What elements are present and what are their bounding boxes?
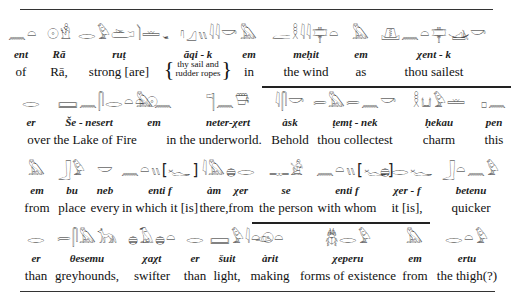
transliteration: pen [478, 116, 510, 129]
translation: in which it [is] [120, 200, 200, 216]
translation: this [478, 132, 510, 148]
translation: place [54, 200, 90, 216]
translation: forms of existence [298, 268, 398, 284]
transliteration: em [132, 116, 176, 129]
hieroglyph-group: 𓈖𓏏 [8, 22, 34, 46]
transliteration: betenu [436, 184, 506, 197]
transliteration: neter-χert [200, 116, 256, 129]
transliteration: Še - nesert [58, 116, 120, 129]
hieroglyph-group: 𓍿𓋴𓅓𓃥 [54, 226, 120, 250]
transliteration: neb [90, 184, 120, 197]
hieroglyph-group: 𓈖𓏏𓏭[𓆑] [120, 158, 200, 182]
translation: thou sailest [378, 64, 490, 80]
transliteration: meḥit [266, 48, 346, 61]
hieroglyph-group: 𓃀𓅱 [54, 158, 90, 182]
transliteration: bu [54, 184, 90, 197]
transliteration: àsk [268, 116, 312, 129]
overline-bar [252, 222, 430, 224]
hieroglyph-group: 𓐍𓂋 [226, 158, 256, 182]
translation: of [8, 64, 34, 80]
hieroglyph-group: 𓆣𓂋𓅱 [298, 226, 398, 250]
translation: the wind [266, 64, 346, 80]
transliteration: χaχt [124, 252, 180, 265]
transliteration: ertu [434, 252, 500, 265]
hieroglyph-group: 𓐛𓎛𓇋𓇋𓊡𓏏 [266, 22, 346, 46]
hieroglyph-group: 𓊹𓈖𓇥 [200, 90, 256, 114]
braced-translation: thy sail andrudder ropes [175, 60, 220, 78]
transliteration: ent [8, 48, 34, 61]
translation: in the underworld. [166, 132, 262, 148]
translation: light, [210, 268, 244, 284]
hieroglyph-group: 𓅓 [236, 22, 262, 46]
top-rule [20, 9, 493, 10]
transliteration: enti f [120, 184, 200, 197]
transliteration: em [398, 252, 432, 265]
translation: the thigh(?) [434, 268, 500, 284]
translation: greyhounds, [54, 268, 120, 284]
hieroglyph-group: 𓊃𓀀 [256, 158, 316, 182]
transliteration: šuit [210, 252, 244, 265]
translation: making [246, 268, 294, 284]
hieroglyph-group: 𓊚𓈖𓏏𓊡𓊛𓎡 [378, 22, 490, 46]
transliteration: se [256, 184, 316, 197]
hieroglyph-group: 𓐍𓂋𓆑 [378, 158, 436, 182]
translation: every [90, 200, 120, 216]
overline-bar [262, 86, 511, 88]
transliteration: ḥekau [408, 116, 470, 129]
transliteration: χeperu [298, 252, 398, 265]
bottom-rule [20, 291, 495, 292]
hieroglyph-group: 𓅓 [398, 226, 432, 250]
translation: thou collectest [310, 132, 400, 148]
hieroglyph-group: 𓅓 [348, 22, 374, 46]
hieroglyph-group: 𓈙𓈖𓋴𓂋𓏏𓏏𓇳 [58, 90, 120, 114]
hieroglyph-group: 𓅓𓈖 [132, 90, 176, 114]
hieroglyph-group: 𓐍𓄿𓐍𓏏 [124, 226, 180, 250]
hieroglyph-group: 𓁹𓏏 [246, 226, 294, 250]
translation: swifter [124, 268, 180, 284]
transliteration: χer [226, 184, 256, 197]
transliteration: ruṭ [78, 48, 160, 61]
hieroglyph-group: 𓎛𓂓𓅱𓏛 [408, 90, 470, 114]
hieroglyph-group: 𓂋 [20, 90, 42, 114]
transliteration: ṭemṭ - nek [310, 116, 400, 129]
transliteration: er [22, 252, 50, 265]
transliteration: em [236, 48, 262, 61]
transliteration: àrit [246, 252, 294, 265]
hieroglyph-group: 𓂋 [180, 226, 210, 250]
translation: Rā, [44, 64, 74, 80]
hieroglyph-group: 𓇋𓋴𓎡 [268, 90, 312, 114]
transliteration: χent - k [378, 48, 490, 61]
translation: quicker [436, 200, 506, 216]
translation: than [180, 268, 210, 284]
translation: the person [256, 200, 316, 216]
hieroglyph-group: 𓂝𓈎𓏭𓇋𓇋𓎡 [162, 22, 234, 46]
transliteration: enti f [316, 184, 378, 197]
translation: Behold [268, 132, 312, 148]
transliteration: em [348, 48, 374, 61]
translation: than [22, 268, 50, 284]
hieroglyph-group: 𓈙𓅱𓇋𓏏𓇳 [210, 226, 244, 250]
hieroglyph-group: 𓂋 [22, 226, 50, 250]
translation: with whom [316, 200, 378, 216]
translation: over the Lake of Fire [24, 132, 140, 148]
transliteration: Rā [44, 48, 74, 61]
translation: charm [408, 132, 470, 148]
translation: from [226, 200, 256, 216]
transliteration: θesemu [54, 252, 120, 265]
translation: from [22, 200, 52, 216]
transliteration: χer - f [378, 184, 436, 197]
hieroglyph-group: 𓎟 [90, 158, 120, 182]
hieroglyph-group: 𓈖𓏏𓏭[𓆑] [316, 158, 378, 182]
hieroglyph-group: 𓂋𓅱𓂧𓌙𓏛 [78, 22, 160, 46]
transliteration: em [22, 184, 52, 197]
translation: as [348, 64, 374, 80]
transliteration: er [180, 252, 210, 265]
hieroglyph-group: 𓇳𓁛 [44, 22, 74, 46]
transliteration: er [20, 116, 42, 129]
hieroglyph-group: 𓊪𓈖 [478, 90, 510, 114]
translation: it [is], [378, 200, 436, 216]
hieroglyph-group: 𓃀𓏏𓈖𓅱 [436, 158, 506, 182]
hieroglyph-group: 𓅓 [22, 158, 52, 182]
translation: in [236, 64, 262, 80]
translation: from [398, 268, 432, 284]
